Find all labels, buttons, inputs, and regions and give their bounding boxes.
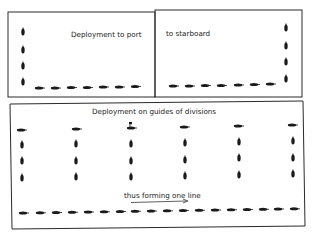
ship-icon [183, 171, 186, 179]
ship-icon [259, 208, 269, 211]
ship-icon [290, 207, 300, 210]
panel-guides: Deployment on guides of divisions [10, 101, 305, 229]
ship-icon [237, 170, 240, 178]
ship-icon [21, 61, 24, 69]
starboard-line-ships [169, 83, 276, 88]
guide-ship-icon [72, 128, 82, 131]
ship-icon [195, 209, 205, 212]
ship-icon [131, 210, 141, 213]
division-column-1 [17, 129, 27, 182]
ship-icon [131, 85, 141, 88]
ship-icon [179, 209, 189, 212]
ship-icon [237, 153, 240, 161]
ship-icon [35, 87, 45, 90]
panel-port: Deployment to port [8, 12, 155, 97]
ship-icon [51, 87, 61, 90]
guide-ship-icon [180, 126, 190, 129]
deployment-diagram: Deployment to port to starboard [0, 0, 312, 235]
ship-icon [68, 211, 78, 214]
ship-icon [115, 86, 125, 89]
ship-icon [163, 209, 173, 212]
division-column-2 [72, 128, 82, 181]
ship-icon [237, 137, 240, 145]
ship-icon [67, 86, 77, 89]
ship-icon [250, 83, 260, 86]
ship-icon [291, 153, 294, 161]
ship-icon [20, 173, 23, 181]
ship-icon [129, 172, 132, 180]
ship-icon [100, 210, 110, 213]
panel-starboard-border [155, 10, 302, 97]
ship-icon [284, 57, 287, 65]
division-column-3 [127, 122, 137, 181]
guide-ship-icon [234, 125, 244, 128]
ship-icon [284, 23, 287, 31]
ship-icon [266, 83, 276, 86]
division-column-6 [288, 124, 298, 178]
flagship-icon [127, 127, 137, 130]
panel-starboard-title: to starboard [166, 29, 210, 38]
ship-icon [129, 139, 132, 147]
flag-pennant-icon [129, 122, 132, 124]
port-line-ships [35, 85, 141, 90]
division-column-5 [234, 125, 244, 179]
panel-guides-title: Deployment on guides of divisions [92, 107, 216, 116]
ship-icon [74, 156, 77, 164]
ship-icon [284, 41, 287, 49]
ship-icon [243, 208, 253, 211]
ship-icon [20, 156, 23, 164]
ship-icon [84, 211, 94, 214]
starboard-column-ships [284, 23, 287, 82]
ship-icon [52, 211, 62, 214]
port-column-ships [21, 27, 24, 85]
ship-icon [183, 138, 186, 146]
ship-icon [20, 140, 23, 148]
single-line-ships [19, 207, 300, 214]
ship-icon [19, 212, 29, 215]
panel-port-title: Deployment to port [71, 30, 142, 39]
panel-port-border [8, 12, 155, 97]
ship-icon [217, 84, 227, 87]
division-column-4 [180, 126, 190, 180]
ship-icon [201, 84, 211, 87]
ship-icon [284, 74, 287, 82]
ship-icon [21, 77, 24, 85]
ship-icon [21, 27, 24, 35]
ship-icon [36, 211, 46, 214]
ship-icon [291, 169, 294, 177]
ship-icon [116, 210, 126, 213]
ship-icon [74, 172, 77, 180]
ship-icon [21, 45, 24, 53]
guide-ship-icon [288, 124, 298, 127]
ship-icon [169, 85, 179, 88]
ship-icon [183, 155, 186, 163]
ship-icon [227, 208, 237, 211]
ship-icon [74, 139, 77, 147]
ship-icon [99, 86, 109, 89]
ship-icon [147, 210, 157, 213]
ship-icon [234, 84, 244, 87]
ship-icon [129, 156, 132, 164]
panel-starboard: to starboard [155, 10, 302, 97]
ship-icon [274, 208, 284, 211]
ship-icon [291, 136, 294, 144]
ship-icon [83, 86, 93, 89]
arrow-label: thus forming one line [124, 191, 201, 200]
guide-ship-icon [17, 129, 27, 132]
ship-icon [185, 85, 195, 88]
ship-icon [211, 209, 221, 212]
